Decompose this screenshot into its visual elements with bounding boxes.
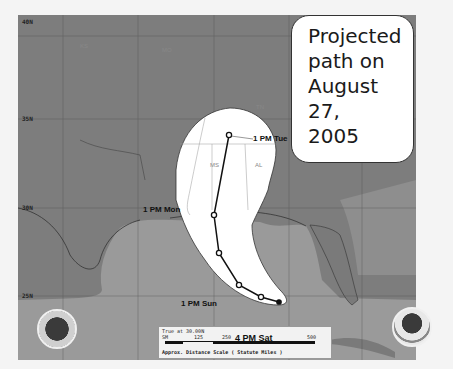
lat-label-25n: 25N — [22, 292, 33, 299]
callout-line-2: path on — [308, 49, 403, 74]
noaa-seal-icon — [392, 307, 432, 347]
scale-bar-gap — [183, 341, 213, 344]
lat-label-40n: 40N — [22, 18, 33, 25]
callout-line-1: Projected — [308, 24, 403, 49]
scale-caption: Approx. Distance Scale ( Statute Miles ) — [162, 349, 282, 355]
lat-label-35n: 35N — [22, 115, 33, 122]
time-label-1pm-mon: 1 PM Mon — [143, 205, 180, 214]
callout-line-3: August 27, — [308, 74, 403, 124]
lat-label-30n: 30N — [22, 204, 33, 211]
state-label-ms: MS — [210, 162, 219, 168]
state-label-ks: KS — [80, 43, 88, 49]
time-label-1pm-sun: 1 PM Sun — [181, 299, 217, 308]
time-label-1pm-tue: 1 PM Tue — [253, 134, 288, 143]
time-label-4pm-sat: 4 PM Sat — [235, 333, 273, 343]
state-label-al: AL — [255, 162, 262, 168]
callout-box: Projected path on August 27, 2005 — [291, 15, 414, 163]
state-label-tn: TN — [256, 104, 264, 110]
nws-seal-icon — [37, 309, 77, 349]
state-label-mo: MO — [162, 47, 172, 53]
scale-tick-500: 500 — [307, 334, 316, 340]
callout-line-4: 2005 — [308, 124, 403, 149]
scale-tick-125: 125 — [194, 334, 203, 340]
scale-tick-sm: SM — [162, 334, 168, 340]
scale-tick-250: 250 — [222, 334, 231, 340]
